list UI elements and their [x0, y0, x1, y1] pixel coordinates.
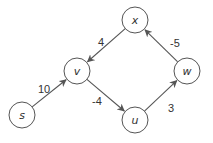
node-label: w: [183, 65, 192, 78]
node-w: w: [174, 58, 200, 84]
edges: 104-43-5: [32, 29, 180, 114]
edge-weight-v-u: -4: [92, 95, 102, 107]
node-label: s: [19, 109, 25, 122]
directed-weighted-graph: 104-43-5 xvwsu: [0, 0, 213, 143]
edge-weight-w-x: -5: [170, 37, 180, 49]
node-s: s: [9, 102, 35, 128]
node-label: v: [74, 65, 81, 78]
node-u: u: [122, 107, 148, 133]
edge-x-v: [88, 29, 126, 62]
node-label: x: [131, 14, 139, 27]
edge-weight-x-v: 4: [98, 36, 104, 48]
edge-weight-s-v: 10: [38, 83, 50, 95]
nodes: xvwsu: [9, 7, 200, 133]
node-x: x: [122, 7, 148, 33]
node-v: v: [64, 58, 90, 84]
node-label: u: [132, 114, 139, 127]
edge-weight-u-w: 3: [168, 102, 174, 114]
